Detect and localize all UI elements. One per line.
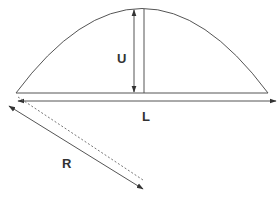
arc-curve [16, 9, 268, 94]
radius-dashed-line [18, 97, 143, 180]
radius-label: R [62, 156, 72, 171]
length-label: L [142, 109, 150, 124]
height-label: U [117, 51, 126, 66]
radius-arrow [9, 106, 143, 189]
arc-segment-diagram: U L R [0, 0, 280, 201]
